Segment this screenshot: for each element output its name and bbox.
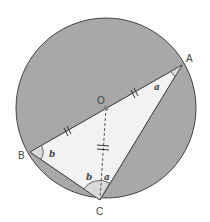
label-o: O bbox=[97, 95, 105, 106]
label-c: C bbox=[96, 206, 103, 217]
angle-label-c-left: b bbox=[86, 172, 92, 182]
label-b: B bbox=[18, 150, 25, 161]
angle-label-b: b bbox=[49, 149, 55, 159]
angle-label-c-right: a bbox=[104, 172, 110, 182]
circle-diagram: A B C O a b b a bbox=[0, 0, 210, 222]
label-a: A bbox=[186, 53, 193, 64]
center-point bbox=[104, 106, 109, 111]
angle-label-a: a bbox=[154, 82, 160, 92]
